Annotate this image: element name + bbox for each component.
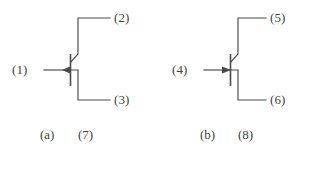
left-emitter-terminal-label: (3)	[114, 92, 129, 108]
left-caption-number: (7)	[78, 127, 93, 143]
transistor-figure: (1) (2) (3) (a) (7) (4) (5) (6) (b) (8)	[0, 0, 324, 170]
left-transistor-symbol	[44, 18, 110, 100]
right-caption-number: (8)	[238, 127, 253, 143]
left-collector-terminal-label: (2)	[114, 10, 129, 26]
right-transistor-symbol	[204, 18, 266, 100]
left-arrowhead-icon	[62, 67, 70, 74]
right-collector-terminal-label: (5)	[270, 10, 285, 26]
right-arrowhead-icon	[222, 66, 231, 73]
left-caption-letter: (a)	[40, 127, 54, 143]
left-collector-lead	[71, 18, 110, 62]
right-collector-lead	[231, 18, 266, 62]
right-emitter-terminal-label: (6)	[270, 92, 285, 108]
right-emitter-lead	[231, 70, 266, 100]
right-caption-letter: (b)	[200, 127, 215, 143]
left-base-terminal-label: (1)	[12, 62, 27, 78]
right-base-terminal-label: (4)	[172, 62, 187, 78]
left-emitter-lead	[71, 70, 110, 100]
